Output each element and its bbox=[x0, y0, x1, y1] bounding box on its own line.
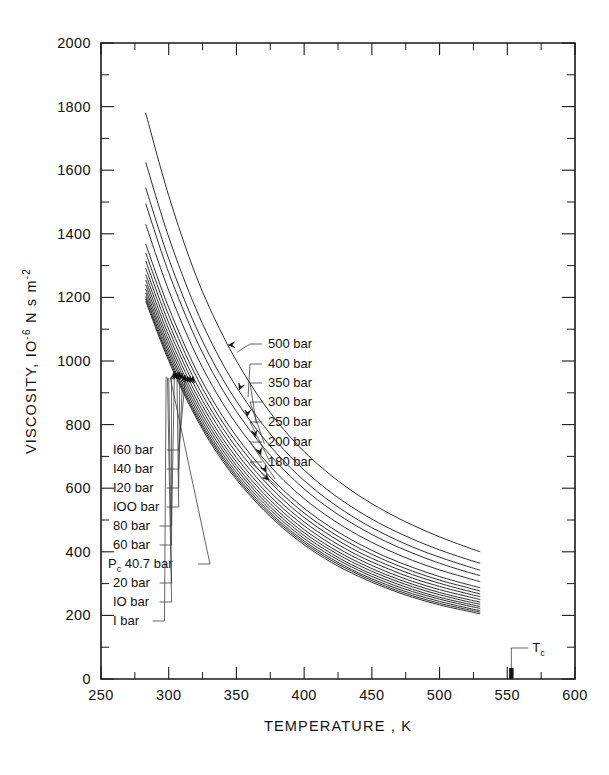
pressure-label-left: I60 bar bbox=[113, 442, 154, 457]
pressure-label-right: 400 bar bbox=[268, 356, 313, 371]
x-tick-label: 400 bbox=[291, 687, 316, 703]
leader-line-right bbox=[237, 344, 250, 352]
curve-400-bar bbox=[146, 162, 481, 563]
x-tick-label: 350 bbox=[224, 687, 249, 703]
pressure-label-right: 200 bar bbox=[268, 434, 313, 449]
viscosity-temperature-chart: 0200400600800100012001400160018002000250… bbox=[0, 0, 609, 775]
curve-160-bar bbox=[146, 261, 481, 594]
leader-arrow-right bbox=[239, 383, 245, 390]
y-tick-label: 2000 bbox=[57, 35, 91, 51]
y-tick-label: 400 bbox=[66, 544, 91, 560]
leader-arrow-right bbox=[245, 410, 251, 417]
x-tick-label: 550 bbox=[495, 687, 520, 703]
pressure-label-right: 180 bar bbox=[268, 454, 313, 469]
curve-60-bar bbox=[146, 289, 481, 606]
curve-180-bar bbox=[146, 253, 481, 591]
curve-80-bar bbox=[146, 285, 481, 605]
pressure-label-left: IOO bar bbox=[113, 499, 160, 514]
x-tick-label: 600 bbox=[562, 687, 587, 703]
tc-leader bbox=[511, 648, 528, 668]
y-tick-label: 1600 bbox=[57, 162, 91, 178]
pressure-label-left: Pc 40.7 bar bbox=[108, 556, 173, 574]
curve-20-bar bbox=[146, 296, 481, 610]
pressure-label-right: 350 bar bbox=[268, 375, 313, 390]
pressure-label-right: 500 bar bbox=[268, 336, 313, 351]
y-tick-label: 1200 bbox=[57, 289, 91, 305]
y-tick-label: 1000 bbox=[57, 353, 91, 369]
x-axis-title: TEMPERATURE , K bbox=[264, 718, 412, 734]
y-tick-label: 0 bbox=[83, 671, 91, 687]
pressure-label-left: I bar bbox=[113, 613, 140, 628]
curve-350-bar bbox=[146, 188, 481, 571]
y-tick-label: 600 bbox=[66, 480, 91, 496]
pressure-label-left: 80 bar bbox=[113, 518, 151, 533]
leader-line-left bbox=[172, 379, 175, 526]
y-tick-label: 1800 bbox=[57, 99, 91, 115]
y-tick-label: 200 bbox=[66, 607, 91, 623]
curve-10-bar bbox=[146, 299, 481, 612]
curve-pc-40-7-bar bbox=[146, 293, 481, 608]
leader-line-left bbox=[179, 381, 180, 488]
pressure-label-right: 300 bar bbox=[268, 394, 313, 409]
chart-svg: 0200400600800100012001400160018002000250… bbox=[0, 0, 609, 775]
tc-marker-tick bbox=[509, 668, 513, 679]
x-tick-label: 500 bbox=[427, 687, 452, 703]
tc-label: Tc bbox=[532, 640, 545, 658]
x-tick-label: 300 bbox=[156, 687, 181, 703]
x-tick-label: 450 bbox=[359, 687, 384, 703]
leader-arrow-right bbox=[261, 465, 267, 472]
pressure-label-left: IO bar bbox=[113, 594, 150, 609]
y-tick-label: 1400 bbox=[57, 226, 91, 242]
pressure-label-left: I40 bar bbox=[113, 461, 154, 476]
pressure-label-right: 250 bar bbox=[268, 414, 313, 429]
pressure-label-left: 60 bar bbox=[113, 537, 151, 552]
y-axis-title: VISCOSITY, IO-6 N s m-2 bbox=[21, 268, 39, 454]
x-tick-label: 250 bbox=[88, 687, 113, 703]
pressure-label-left: 20 bar bbox=[113, 575, 151, 590]
curve-500-bar bbox=[146, 113, 481, 552]
pressure-label-left: I20 bar bbox=[113, 480, 154, 495]
y-tick-label: 800 bbox=[66, 417, 91, 433]
leader-line-left bbox=[165, 377, 167, 621]
